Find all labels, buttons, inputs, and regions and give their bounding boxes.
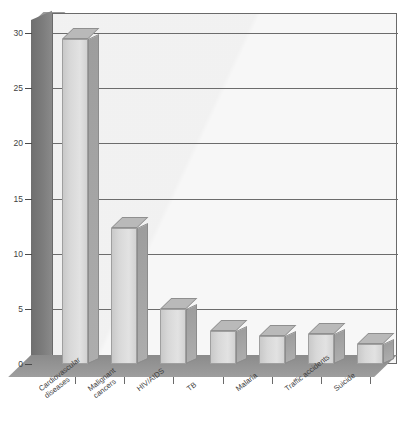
bar-side <box>186 304 197 364</box>
bar-side <box>285 332 296 364</box>
y-tick-label-10: 10 <box>0 250 23 259</box>
y-axis: 051015202530 <box>0 0 52 430</box>
gridline-10 <box>52 254 398 255</box>
x-tick-mark-6 <box>370 377 371 384</box>
bar-side <box>137 223 148 364</box>
gridline-25 <box>52 88 398 89</box>
y-tick-label-0: 0 <box>0 360 23 369</box>
x-axis-label-tb: TB <box>185 380 198 393</box>
gridline-5 <box>52 309 398 310</box>
x-tick-mark-5 <box>321 377 322 384</box>
y-tick-label-5: 5 <box>0 305 23 314</box>
bar-malaria <box>259 336 285 364</box>
bar-tb <box>210 331 236 364</box>
y-tick-mark-10 <box>25 254 32 255</box>
bar-chart: 051015202530 CardiovasculardiseasesMalig… <box>0 0 419 430</box>
y-tick-label-15: 15 <box>0 195 23 204</box>
y-tick-label-20: 20 <box>0 139 23 148</box>
y-tick-mark-20 <box>25 143 32 144</box>
bar-side <box>236 326 247 364</box>
y-tick-mark-5 <box>25 309 32 310</box>
y-tick-mark-25 <box>25 88 32 89</box>
bar-front <box>62 39 88 364</box>
bar-suicide <box>357 344 383 364</box>
bar-cardiovascular-diseases <box>62 39 88 364</box>
bar-side <box>88 34 99 364</box>
bar-front <box>210 331 236 364</box>
bar-front <box>160 309 186 364</box>
bar-malignant-cancers <box>111 228 137 364</box>
bar-side <box>334 329 345 364</box>
gridline-30 <box>52 33 398 34</box>
bar-front <box>111 228 137 364</box>
y-tick-mark-30 <box>25 33 32 34</box>
x-tick-mark-2 <box>173 377 174 384</box>
x-tick-mark-4 <box>272 377 273 384</box>
x-tick-mark-3 <box>223 377 224 384</box>
gridline-20 <box>52 143 398 144</box>
y-tick-label-30: 30 <box>0 29 23 38</box>
gridline-15 <box>52 199 398 200</box>
bar-hiv-aids <box>160 309 186 364</box>
y-tick-label-25: 25 <box>0 84 23 93</box>
bar-front <box>357 344 383 364</box>
y-tick-mark-0 <box>25 364 32 365</box>
plot-area <box>52 13 397 364</box>
y-tick-mark-15 <box>25 199 32 200</box>
bar-front <box>259 336 285 364</box>
x-tick-mark-1 <box>124 377 125 384</box>
